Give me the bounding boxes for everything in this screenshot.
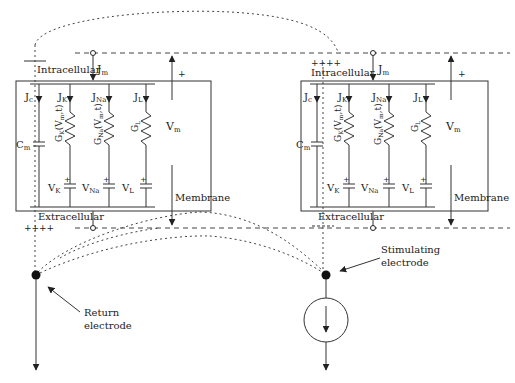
right-vm-plus: + [458,69,466,79]
svg-text:+: + [64,175,71,184]
left-membrane-label: Membrane [175,192,230,203]
stimulating-electrode-pointer [340,258,380,271]
right-branch-l: JL GL VL + [401,84,432,207]
left-gna-label: GNa(Vm,t) [93,103,104,145]
right-branch-k: JK GK(Vm,t) VK + [326,84,355,207]
left-branch-na: JNa GNa(Vm,t) VNa + [81,84,115,207]
left-vm-label: Vm [165,120,181,134]
right-membrane-label: Membrane [454,192,509,203]
stimulating-electrode-label-2: electrode [381,257,429,268]
left-jm-node [91,51,96,56]
field-line-top-arc [35,11,338,52]
left-gl-label: GL [130,121,141,132]
right-jl-label: JL [413,91,423,104]
right-vk-label: VK [326,182,340,195]
right-vl-label: VL [401,182,414,195]
right-jna-label: JNa [371,91,386,104]
right-intracellular-label: Intracellular [311,67,375,78]
left-ground-node [91,226,96,231]
right-gl-label: GL [410,121,421,132]
left-extracellular-label: Extracellular [38,211,104,222]
right-jm-node [371,51,376,56]
left-charges: ++++ [24,223,54,233]
svg-text:+: + [103,175,110,184]
right-jk-label: JK [337,91,348,104]
return-electrode-label-1: Return [84,307,120,318]
svg-text:+: + [420,175,427,184]
left-vl-label: VL [121,182,134,195]
right-vna-label: VNa [360,182,379,195]
return-electrode: Return electrode [32,271,132,371]
left-vna-label: VNa [81,182,100,195]
stimulating-electrode-label-1: Stimulating [381,244,441,255]
stimulating-electrode: Stimulating electrode [304,244,441,370]
return-electrode-label-2: electrode [84,320,132,331]
field-line-lower-arc-2 [40,236,322,273]
membrane-circuit-diagram: Jm Intracellular Extracellular ++++ + Vm… [0,0,515,383]
svg-text:+: + [140,175,147,184]
left-cm-label: Cm [16,139,31,152]
left-cell-circuit: Jm Intracellular Extracellular ++++ + Vm… [16,51,230,234]
left-branch-l: JL GL VL + [121,84,152,207]
right-cm-label: Cm [296,139,311,152]
left-vk-label: VK [47,182,61,195]
return-electrode-pointer [48,287,80,312]
left-intracellular-label: Intracellular [37,64,101,75]
right-extracellular-label: Extracellular [318,211,384,222]
right-gk-label: GK(Vm,t) [333,105,344,142]
right-jc-label: Jc [303,91,312,104]
right-cell-circuit: Jm Intracellular ++++ Extracellular + Vm… [296,51,509,231]
left-jl-label: JL [133,91,143,104]
left-jna-label: JNa [91,91,106,104]
return-electrode-dot [32,271,41,280]
left-branch-k: JK GK(Vm,t) VK + [47,84,76,207]
right-vm-label: Vm [445,120,461,134]
svg-text:+: + [343,175,350,184]
svg-text:+: + [383,175,390,184]
right-branch-na: JNa GNa(Vm,t) VNa + [360,84,395,207]
left-vm-plus: + [178,69,186,79]
right-jm-label: Jm [377,63,389,77]
left-jk-label: JK [57,91,68,104]
left-jc-label: Jc [24,91,33,104]
right-ground-node [371,226,376,231]
right-gna-label: GNa(Vm,t) [373,103,384,145]
field-line-lower-arc-3 [60,228,160,258]
left-gk-label: GK(Vm,t) [54,105,65,142]
stimulating-electrode-dot [322,271,331,280]
right-charges: ++++ [311,58,341,68]
